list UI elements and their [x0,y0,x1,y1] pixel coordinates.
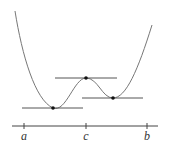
tick-label-a: a [21,129,27,143]
left-minimum-point [51,106,55,110]
right-minimum-point [111,96,115,100]
function-curve [15,11,152,108]
tick-label-b: b [144,129,150,143]
tick-label-c: c [83,129,89,143]
local-maximum-point [84,76,88,80]
function-diagram: a c b [0,0,176,148]
